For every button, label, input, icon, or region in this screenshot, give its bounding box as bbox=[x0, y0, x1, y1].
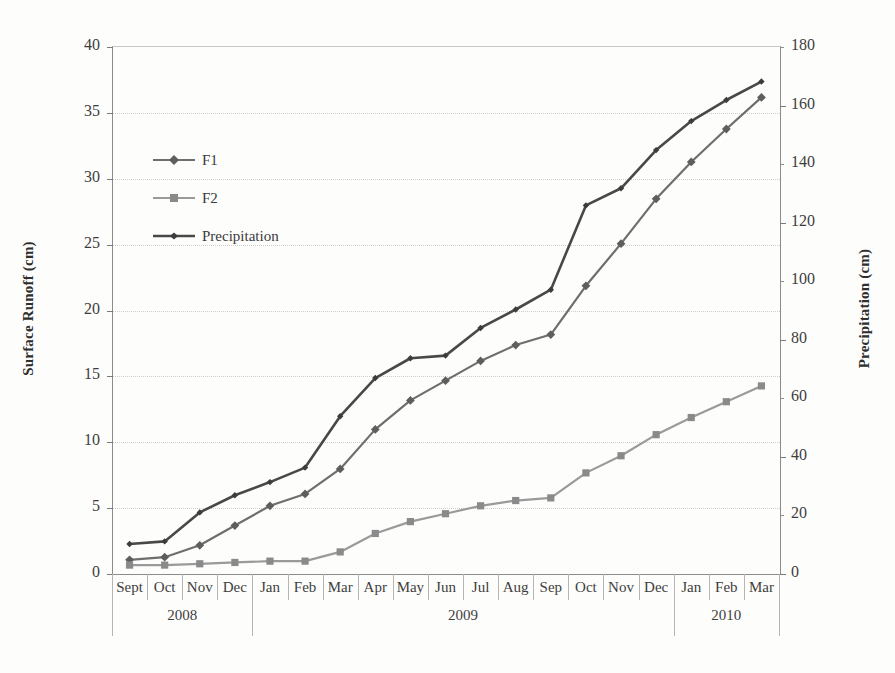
data-point bbox=[196, 560, 203, 567]
data-point bbox=[126, 541, 132, 547]
y-axis-right-tickmark bbox=[780, 281, 784, 282]
x-axis-tick-separator bbox=[779, 574, 780, 600]
data-point bbox=[512, 497, 519, 504]
data-point bbox=[511, 341, 520, 350]
y-axis-right-tickmark bbox=[780, 340, 786, 341]
y-axis-left-title: Surface Runoff (cm) bbox=[20, 159, 37, 459]
x-axis-tick-label: Jun bbox=[428, 576, 463, 598]
data-point bbox=[441, 376, 450, 385]
x-axis-tick-label: Oct bbox=[147, 576, 182, 598]
data-series-layer bbox=[112, 46, 779, 573]
y-axis-right-tickmark bbox=[780, 515, 784, 516]
data-point bbox=[723, 398, 730, 405]
x-axis-tick-label: Aug bbox=[498, 576, 533, 598]
y-axis-left-tick-label: 20 bbox=[84, 301, 100, 317]
x-axis-tick-label: Apr bbox=[358, 576, 393, 598]
x-axis-tick-label: Sep bbox=[533, 576, 568, 598]
y-axis-right-tickmark bbox=[780, 574, 786, 575]
y-axis-right-tick-label: 80 bbox=[791, 330, 807, 346]
x-axis-year-label: 2010 bbox=[674, 604, 779, 626]
data-point bbox=[372, 530, 379, 537]
x-axis-tick-label: Dec bbox=[217, 576, 252, 598]
y-axis-right-tick-label: 140 bbox=[791, 154, 815, 170]
x-axis-tick-label: Mar bbox=[744, 576, 779, 598]
y-axis-right-tick-label: 180 bbox=[791, 37, 815, 53]
x-axis: SeptOctNovDecJanFebMarAprMayJunJulAugSep… bbox=[112, 574, 779, 636]
series-f2 bbox=[126, 382, 765, 568]
legend-swatch-f2 bbox=[152, 189, 196, 207]
chart-legend: F1 F2 Precipitation bbox=[152, 142, 382, 256]
x-axis-tick-label: Dec bbox=[639, 576, 674, 598]
y-axis-right-tickmark bbox=[780, 47, 784, 48]
data-point bbox=[337, 548, 344, 555]
legend-item-precipitation: Precipitation bbox=[152, 218, 382, 256]
data-point bbox=[476, 356, 485, 365]
data-point bbox=[266, 558, 273, 565]
x-axis-tick-label: May bbox=[393, 576, 428, 598]
y-axis-right-tickmark bbox=[780, 223, 786, 224]
x-axis-year-separator bbox=[112, 600, 113, 636]
data-point bbox=[617, 452, 624, 459]
data-point bbox=[547, 494, 554, 501]
y-axis-right-tick-label: 120 bbox=[791, 213, 815, 229]
data-point bbox=[266, 501, 275, 510]
x-axis-tick-label: Feb bbox=[709, 576, 744, 598]
x-axis-tick-label: Feb bbox=[288, 576, 323, 598]
data-point bbox=[407, 518, 414, 525]
x-axis-tick-label: Nov bbox=[182, 576, 217, 598]
x-axis-year-separator bbox=[779, 600, 780, 636]
data-point bbox=[161, 561, 168, 568]
legend-item-f2: F2 bbox=[152, 180, 382, 218]
data-point bbox=[230, 521, 239, 530]
x-axis-year-separator bbox=[252, 600, 253, 636]
y-axis-right-tick-label: 20 bbox=[791, 505, 807, 521]
x-axis-tick-label: Sept bbox=[112, 576, 147, 598]
data-point bbox=[758, 382, 765, 389]
data-point bbox=[126, 561, 133, 568]
y-axis-right-tickmark bbox=[780, 457, 786, 458]
y-axis-right-tickmark bbox=[780, 398, 784, 399]
data-point bbox=[195, 541, 204, 550]
y-axis-left-tick-label: 10 bbox=[84, 432, 100, 448]
y-axis-left-tick-label: 15 bbox=[84, 366, 100, 382]
chart-figure: Surface Runoff (cm) Precipitation (cm) 0… bbox=[0, 0, 895, 673]
legend-label-precipitation: Precipitation bbox=[202, 227, 279, 245]
data-point bbox=[160, 553, 169, 562]
data-point bbox=[301, 558, 308, 565]
x-axis-tick-label: Jan bbox=[252, 576, 287, 598]
legend-swatch-precipitation bbox=[152, 227, 196, 245]
y-axis-right-tick-label: 160 bbox=[791, 96, 815, 112]
y-axis-left-tick-label: 30 bbox=[84, 169, 100, 185]
y-axis-left-tick-label: 0 bbox=[92, 564, 100, 580]
y-axis-right-tick-label: 40 bbox=[791, 447, 807, 463]
data-point bbox=[688, 414, 695, 421]
series-line bbox=[130, 386, 762, 565]
y-axis-right-tick-label: 0 bbox=[791, 564, 799, 580]
y-axis-right-title: Precipitation (cm) bbox=[856, 159, 873, 459]
y-axis-left-tick-label: 35 bbox=[84, 103, 100, 119]
y-axis-right-tick-label: 60 bbox=[791, 388, 807, 404]
y-axis-left-tick-label: 5 bbox=[92, 498, 100, 514]
x-axis-year-label: 2009 bbox=[252, 604, 673, 626]
data-point bbox=[231, 559, 238, 566]
x-axis-year-label: 2008 bbox=[112, 604, 252, 626]
data-point bbox=[653, 431, 660, 438]
y-axis-right-tickmark bbox=[780, 164, 784, 165]
legend-swatch-f1 bbox=[152, 151, 196, 169]
y-axis-left-tick-label: 40 bbox=[84, 37, 100, 53]
data-point bbox=[442, 510, 449, 517]
y-axis-right-tick-label: 100 bbox=[791, 271, 815, 287]
x-axis-tick-label: Jan bbox=[674, 576, 709, 598]
x-axis-year-separator bbox=[674, 600, 675, 636]
legend-label-f2: F2 bbox=[202, 189, 218, 207]
legend-item-f1: F1 bbox=[152, 142, 382, 180]
x-axis-tick-label: Jul bbox=[463, 576, 498, 598]
y-axis-left-tick-label: 25 bbox=[84, 235, 100, 251]
x-axis-tick-label: Nov bbox=[603, 576, 638, 598]
data-point bbox=[477, 502, 484, 509]
x-axis-tick-label: Mar bbox=[323, 576, 358, 598]
y-axis-right-tickmark bbox=[780, 106, 786, 107]
data-point bbox=[582, 469, 589, 476]
x-axis-tick-label: Oct bbox=[568, 576, 603, 598]
legend-label-f1: F1 bbox=[202, 151, 218, 169]
